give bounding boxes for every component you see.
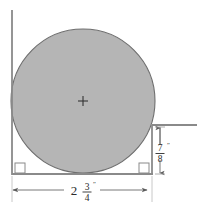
technical-drawing-figure: 7 8 ″ 2 3 4 ″	[0, 0, 198, 210]
horizontal-dim-denominator: 4	[85, 193, 90, 203]
horizontal-dim-inch-mark: ″	[93, 180, 96, 188]
vertical-dim-denominator: 8	[158, 154, 163, 164]
drawing-canvas: 7 8 ″ 2 3 4 ″	[0, 0, 198, 210]
vertical-dim-inch-mark: ″	[167, 141, 170, 149]
horizontal-dim-numerator: 3	[85, 182, 90, 192]
vertical-dim-numerator: 7	[158, 143, 163, 153]
horizontal-dim-whole-number: 2	[71, 183, 78, 198]
